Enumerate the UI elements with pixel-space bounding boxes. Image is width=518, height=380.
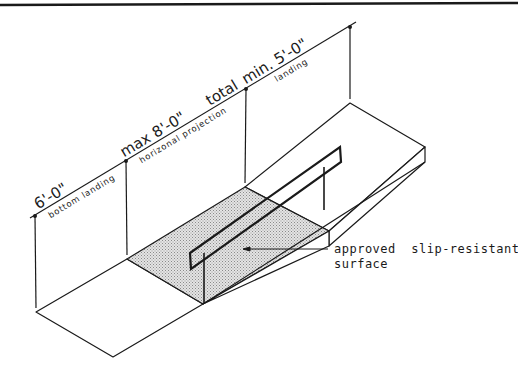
callout-line-1: approved slip-resistant xyxy=(334,242,518,256)
callout-line-2: surface xyxy=(334,257,388,271)
extension-line-1 xyxy=(35,216,36,308)
dimension-tick-1 xyxy=(33,214,37,218)
top-border-rule xyxy=(0,3,518,5)
extension-line-2 xyxy=(126,161,127,255)
dimension-tick-4 xyxy=(348,25,352,29)
extension-line-3 xyxy=(245,89,246,183)
ramp-diagram: 6'-0" bottom landing max 8'-0" horizonal… xyxy=(0,0,518,380)
dim-ramp-run-total: total xyxy=(202,76,241,109)
